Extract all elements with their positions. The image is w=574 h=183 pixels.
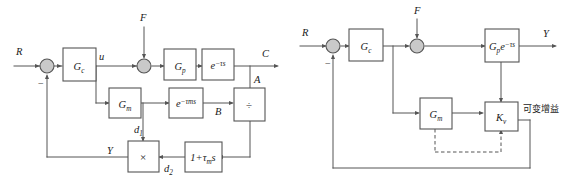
- label-branch-a-left: A: [253, 74, 261, 85]
- left-diagram: R − Gc u F Gp e−τs C A Gm e−τms B ÷ d1 ×…: [0, 0, 574, 183]
- control-block-diagram-figure: R − Gc u F Gp e−τs C A Gm e−τms B ÷ d1 ×…: [0, 0, 574, 183]
- label-d2-left: d2: [164, 163, 173, 177]
- label-disturbance-left: F: [139, 12, 147, 23]
- label-reference-right: R: [301, 27, 309, 38]
- label-annotation-variable-gain: 可变增益: [523, 103, 559, 114]
- label-u-left: u: [99, 51, 104, 62]
- label-reference-left: R: [15, 46, 23, 57]
- label-block-divide-left: ÷: [246, 99, 252, 111]
- label-minus-left: −: [38, 78, 44, 89]
- label-minus-right: −: [325, 58, 331, 69]
- disturbance-junction-right: [410, 39, 424, 53]
- label-feedback-y-left: Y: [107, 145, 114, 156]
- label-disturbance-right: F: [413, 5, 421, 16]
- disturbance-junction-left: [137, 59, 151, 73]
- label-output-c-left: C: [262, 48, 270, 59]
- summing-junction-right: [326, 39, 340, 53]
- summing-junction-left: [40, 59, 54, 73]
- label-d1-left: d1: [134, 124, 143, 138]
- label-block-multiply-left: ×: [140, 151, 146, 163]
- label-output-y-right: Y: [543, 28, 550, 39]
- label-branch-b-left: B: [215, 106, 222, 117]
